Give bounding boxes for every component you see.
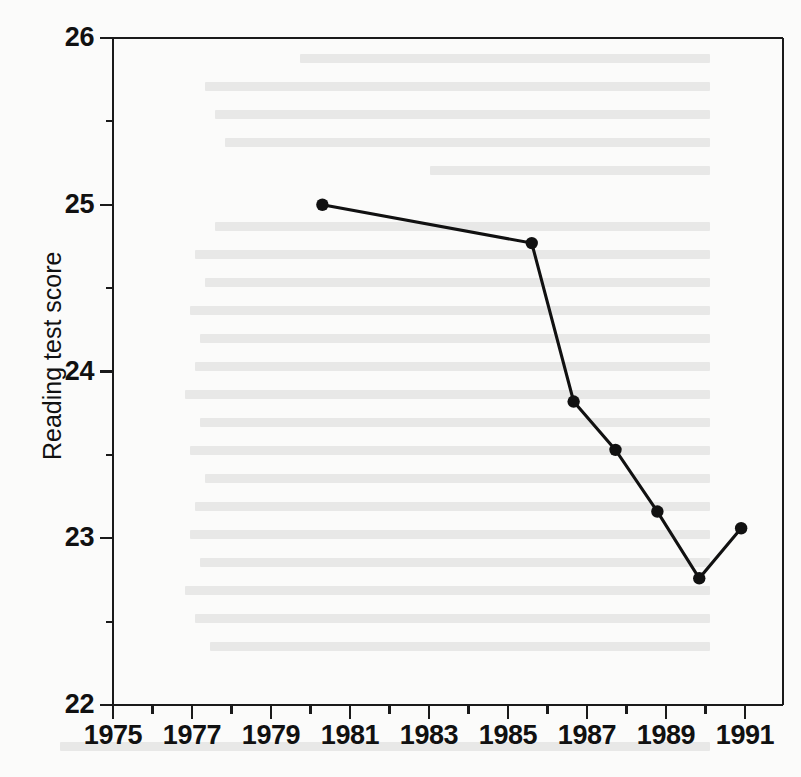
x-axis-major-ticks — [113, 705, 745, 719]
data-point-1987 — [609, 444, 621, 456]
data-point-1990 — [735, 522, 747, 534]
reading-test-score-line-chart: Reading test score 26 25 24 23 22 1975 1… — [0, 0, 801, 777]
data-point-1986 — [567, 395, 579, 407]
data-point-1980 — [316, 199, 328, 211]
data-series-line — [322, 205, 741, 579]
y-axis-major-ticks — [100, 38, 113, 705]
data-point-1988 — [651, 505, 663, 517]
data-point-1989 — [693, 572, 705, 584]
plot-area-svg — [0, 0, 801, 777]
data-point-1985 — [526, 237, 538, 249]
chart-page: Reading test score 26 25 24 23 22 1975 1… — [0, 0, 801, 777]
data-series-markers — [316, 199, 747, 585]
